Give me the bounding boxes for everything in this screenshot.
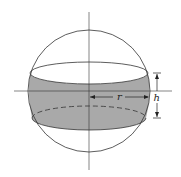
arrowhead-up-icon (155, 74, 159, 79)
arrowhead-down-icon (155, 112, 159, 117)
height-label: h (154, 92, 160, 103)
sphere-band-diagram: r h (0, 0, 181, 177)
